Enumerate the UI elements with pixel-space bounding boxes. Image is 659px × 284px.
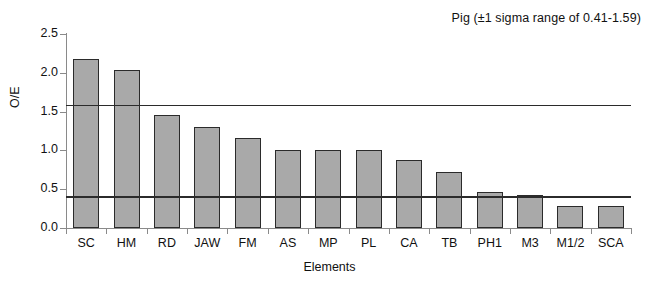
bar: [235, 138, 261, 228]
x-tick-label: M3: [521, 236, 538, 250]
x-tick-mark: [631, 228, 632, 234]
x-tick-mark: [187, 228, 188, 234]
chart-figure: Pig (±1 sigma range of 0.41-1.59) O/E 0.…: [0, 0, 659, 284]
bar: [396, 160, 422, 228]
y-tick-label-wrap: 0.0: [14, 228, 58, 229]
y-tick-label: 1.0: [18, 142, 58, 156]
x-tick-label: M1/2: [557, 236, 585, 250]
bar: [598, 206, 624, 228]
x-tick-label: RD: [158, 236, 176, 250]
chart-title: Pig (±1 sigma range of 0.41-1.59): [452, 11, 641, 25]
x-tick-mark: [510, 228, 511, 234]
y-tick-label: 0.0: [18, 220, 58, 234]
y-tick-label-wrap: 2.5: [14, 34, 58, 35]
bar: [154, 115, 180, 228]
x-tick-label: CA: [400, 236, 417, 250]
x-tick-mark: [66, 228, 67, 234]
bar: [557, 206, 583, 228]
y-tick-label-wrap: 1.0: [14, 150, 58, 151]
x-tick-mark: [550, 228, 551, 234]
y-tick-label-wrap: 0.5: [14, 189, 58, 190]
bar: [517, 195, 543, 228]
upper-sigma-line: [66, 105, 631, 106]
bar: [73, 59, 99, 228]
plot-area: [66, 34, 631, 228]
x-tick-mark: [591, 228, 592, 234]
x-tick-label: PH1: [478, 236, 502, 250]
x-tick-label: HM: [117, 236, 136, 250]
x-tick-label: SC: [77, 236, 94, 250]
x-tick-mark: [268, 228, 269, 234]
x-tick-mark: [227, 228, 228, 234]
y-tick-label-wrap: 2.0: [14, 73, 58, 74]
x-tick-mark: [349, 228, 350, 234]
lower-sigma-line: [66, 196, 631, 197]
x-tick-mark: [429, 228, 430, 234]
y-tick-label-wrap: 1.5: [14, 112, 58, 113]
x-tick-label: TB: [441, 236, 457, 250]
bar: [436, 172, 462, 228]
bar: [275, 150, 301, 228]
x-tick-label: AS: [280, 236, 297, 250]
x-tick-mark: [147, 228, 148, 234]
y-tick-label: 2.5: [18, 26, 58, 40]
bar: [194, 127, 220, 228]
x-tick-label: FM: [239, 236, 257, 250]
x-tick-label: JAW: [194, 236, 220, 250]
y-tick-label: 2.0: [18, 65, 58, 79]
x-tick-mark: [308, 228, 309, 234]
x-tick-mark: [470, 228, 471, 234]
x-tick-label: PL: [361, 236, 376, 250]
x-tick-label: SCA: [598, 236, 624, 250]
x-tick-label: MP: [319, 236, 338, 250]
bar: [114, 70, 140, 228]
x-tick-mark: [389, 228, 390, 234]
x-tick-mark: [106, 228, 107, 234]
bar: [356, 150, 382, 228]
bar: [315, 150, 341, 228]
y-tick-label: 0.5: [18, 181, 58, 195]
y-tick-label: 1.5: [18, 104, 58, 118]
x-axis-label: Elements: [0, 260, 659, 274]
